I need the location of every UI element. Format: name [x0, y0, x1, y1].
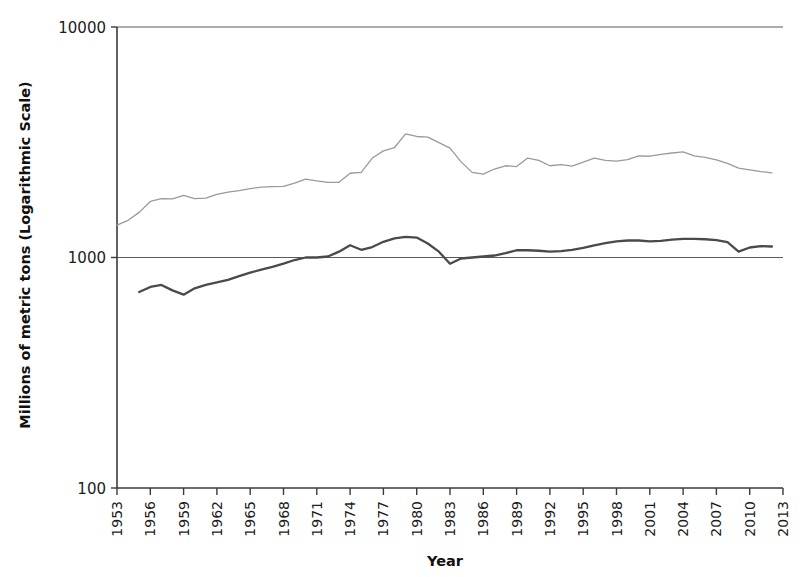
series-lines: [117, 134, 772, 295]
x-tick-label-1971: 1971: [309, 501, 325, 537]
x-tick-label-1974: 1974: [342, 501, 358, 537]
x-tick-label-1965: 1965: [242, 501, 258, 537]
x-tick-label-1983: 1983: [442, 501, 458, 537]
x-axis-title: Year: [426, 553, 464, 569]
x-tick-label-1956: 1956: [142, 501, 158, 537]
x-tick-label-1962: 1962: [209, 501, 225, 537]
y-axis-tick-labels: 100001000100: [58, 19, 106, 498]
series-upper-series: [117, 134, 772, 225]
x-tick-label-1995: 1995: [575, 501, 591, 537]
x-tick-label-2004: 2004: [675, 501, 691, 537]
x-tick-label-1968: 1968: [276, 501, 292, 537]
y-axis-title: Millions of metric tons (Logarithmic Sca…: [17, 81, 33, 428]
x-tick-label-1959: 1959: [176, 501, 192, 537]
chart-page: 100001000100 195319561959196219651968197…: [0, 0, 810, 577]
series-lower-series: [139, 237, 772, 295]
x-tick-label-1980: 1980: [409, 501, 425, 537]
x-tick-label-2007: 2007: [708, 501, 724, 537]
x-tick-label-1992: 1992: [542, 501, 558, 537]
x-tick-label-2013: 2013: [775, 501, 791, 537]
line-chart: 100001000100 195319561959196219651968197…: [0, 0, 810, 577]
y-tick-label-1000: 1000: [68, 249, 106, 267]
x-tick-label-1953: 1953: [109, 501, 125, 537]
gridlines: [117, 27, 783, 258]
x-tick-label-2010: 2010: [742, 501, 758, 537]
y-tick-label-100: 100: [77, 480, 106, 498]
y-tick-label-10000: 10000: [58, 19, 106, 37]
x-tick-label-1989: 1989: [509, 501, 525, 537]
x-tick-label-1977: 1977: [375, 501, 391, 537]
x-tick-label-2001: 2001: [642, 501, 658, 537]
x-tick-label-1998: 1998: [609, 501, 625, 537]
x-axis-tick-labels: 1953195619591962196519681971197419771980…: [109, 501, 791, 537]
x-tick-label-1986: 1986: [475, 501, 491, 537]
